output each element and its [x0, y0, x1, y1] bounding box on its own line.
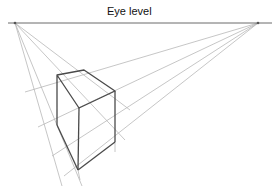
right-vp-guides — [25, 23, 258, 176]
diagram-canvas — [0, 0, 280, 186]
right-vanishing-point — [257, 22, 260, 25]
left-vanishing-point — [14, 22, 17, 25]
guide-line — [15, 23, 130, 110]
box-bottom-right-edge — [78, 142, 115, 170]
box-top-face — [57, 70, 115, 125]
guide-line — [64, 23, 258, 176]
box-front-edge — [78, 108, 79, 170]
box-bottom-left-edge — [57, 125, 78, 170]
guide-line — [15, 23, 82, 186]
eye-level-label: Eye level — [107, 5, 152, 17]
guide-line — [38, 23, 258, 127]
perspective-diagram: Eye level — [0, 0, 280, 186]
guide-line — [52, 23, 258, 156]
left-vp-guides — [15, 23, 130, 186]
